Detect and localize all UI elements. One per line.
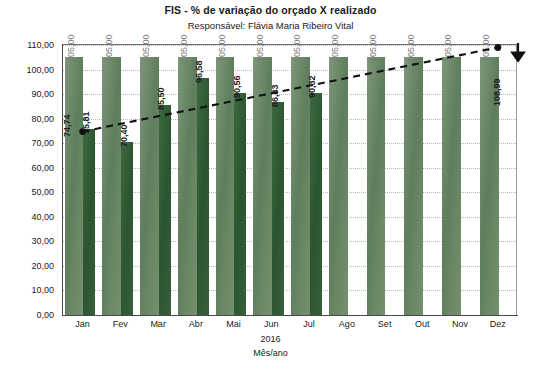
y-axis-tick-label: 90,00 (31, 89, 54, 99)
trend-line-marker (79, 128, 86, 135)
trend-line-marker (494, 44, 501, 51)
y-axis-tick-label: 70,00 (31, 138, 54, 148)
y-axis-tick-label: 110,00 (27, 40, 54, 50)
chart-title: FIS - % de variação do orçado X realizad… (0, 4, 541, 16)
x-axis-year: 2016 (0, 334, 541, 344)
x-axis-tick-label: Mai (226, 319, 241, 329)
y-axis-tick-label: 0,00 (36, 310, 54, 320)
x-axis-tick-label: Mar (150, 319, 166, 329)
y-axis-tick-label: 100,00 (26, 65, 54, 75)
y-axis-tick-label: 80,00 (31, 114, 54, 124)
x-axis-tick-label: Nov (452, 319, 468, 329)
arrow-down-icon (509, 42, 527, 62)
x-axis-line (62, 315, 518, 316)
chart-container: FIS - % de variação do orçado X realizad… (0, 0, 541, 365)
x-axis-tick-label: Fev (113, 319, 128, 329)
x-axis-tick-label: Jan (75, 319, 90, 329)
x-axis-tick-label: Jul (303, 319, 315, 329)
y-axis-tick-label: 40,00 (31, 212, 54, 222)
x-axis-tick-label: Out (415, 319, 430, 329)
x-axis-title: Mês/ano (0, 348, 541, 358)
x-axis-tick-label: Ago (339, 319, 355, 329)
x-axis-labels: JanFevMarAbrMaiJunJulAgoSetOutNovDez (63, 319, 516, 333)
chart-subtitle: Responsável: Flávia Maria Ribeiro Vital (0, 20, 541, 31)
y-axis-tick-label: 60,00 (31, 163, 54, 173)
trend-line (63, 45, 516, 315)
y-axis-labels: 0,0010,0020,0030,0040,0050,0060,0070,008… (0, 44, 58, 316)
trend-line-path (83, 47, 498, 131)
y-axis-tick-label: 50,00 (31, 187, 54, 197)
x-axis-tick-label: Set (378, 319, 392, 329)
y-axis-tick-label: 10,00 (31, 285, 54, 295)
y-axis-tick-label: 30,00 (31, 236, 54, 246)
y-axis-tick-label: 20,00 (31, 261, 54, 271)
x-axis-tick-label: Dez (490, 319, 506, 329)
x-axis-tick-label: Jun (264, 319, 279, 329)
x-axis-tick-label: Abr (189, 319, 203, 329)
